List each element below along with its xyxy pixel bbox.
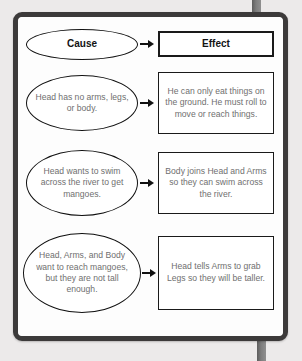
header-cause-label: Cause xyxy=(67,38,97,49)
table-row: Head, Arms, and Body want to reach mango… xyxy=(22,225,279,321)
header-cause-ellipse: Cause xyxy=(26,29,138,60)
right-arrow-icon xyxy=(140,39,156,49)
right-arrow-icon xyxy=(140,98,156,108)
sign-post-bottom xyxy=(257,338,266,361)
arrow-head xyxy=(148,40,154,48)
chart-card: Cause Effect Head has no arms, legs, or … xyxy=(18,17,283,336)
effect-box-2: Body joins Head and Arms so they can swi… xyxy=(158,152,274,214)
right-arrow-icon xyxy=(142,268,158,278)
arrow-head xyxy=(148,99,154,107)
cause-ellipse-1: Head has no arms, legs, or body. xyxy=(26,75,138,131)
cause-ellipse-3: Head, Arms, and Body want to reach mango… xyxy=(23,233,141,313)
effect-box-1: He can only eat things on the ground. He… xyxy=(158,72,274,134)
effect-box-3: Head tells Arms to grab Legs so they wil… xyxy=(158,236,274,310)
table-row: Head wants to swim across the river to g… xyxy=(22,141,279,225)
effect-text-1: He can only eat things on the ground. He… xyxy=(164,86,268,121)
header-effect-box: Effect xyxy=(158,31,274,57)
effect-text-2: Body joins Head and Arms so they can swi… xyxy=(164,166,268,201)
table-header-row: Cause Effect xyxy=(22,23,279,65)
table-row: Head has no arms, legs, or body. He can … xyxy=(22,65,279,141)
effect-text-3: Head tells Arms to grab Legs so they wil… xyxy=(164,261,268,284)
right-arrow-icon xyxy=(140,178,156,188)
cause-text-2: Head wants to swim across the river to g… xyxy=(32,166,132,200)
cause-text-1: Head has no arms, legs, or body. xyxy=(32,92,132,115)
cause-effect-table: Cause Effect Head has no arms, legs, or … xyxy=(18,17,283,336)
arrow-head xyxy=(148,179,154,187)
cause-text-3: Head, Arms, and Body want to reach mango… xyxy=(29,250,135,296)
header-effect-label: Effect xyxy=(202,38,230,50)
chart-frame: Cause Effect Head has no arms, legs, or … xyxy=(13,12,288,341)
cause-ellipse-2: Head wants to swim across the river to g… xyxy=(26,150,138,216)
arrow-head xyxy=(150,269,156,277)
